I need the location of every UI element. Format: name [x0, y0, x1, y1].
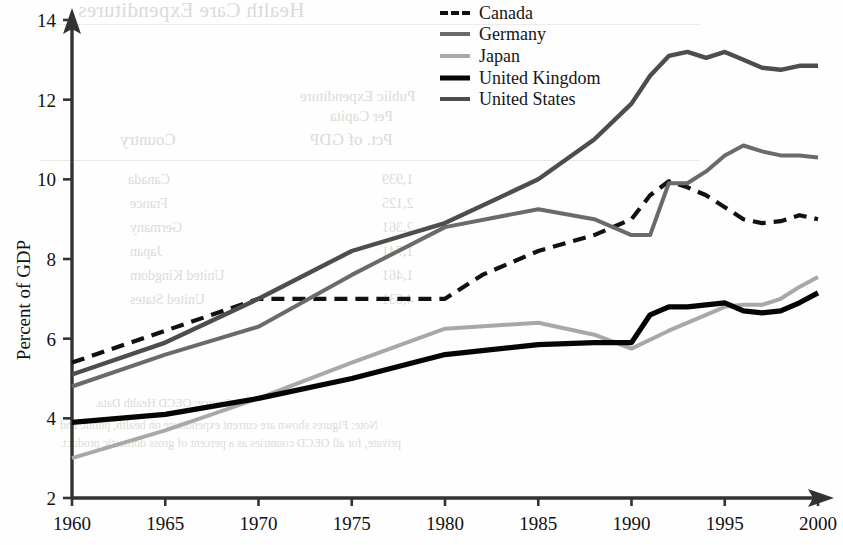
legend-item-japan[interactable]: Japan: [440, 45, 601, 67]
y-tick-label: 12: [37, 90, 56, 111]
y-tick-label: 10: [37, 169, 56, 190]
y-tick-label: 4: [47, 408, 57, 429]
legend-label-japan: Japan: [479, 47, 520, 65]
x-tick-group: 196019651970197519801985199019952000: [53, 498, 837, 534]
line-chart: 2468101214 19601965197019751980198519901…: [0, 0, 843, 545]
figure-container: Health Care Expenditures Public Expendit…: [0, 0, 843, 545]
legend-label-united-states: United States: [479, 90, 576, 108]
series-line-germany: [72, 146, 818, 387]
series-line-united-kingdom: [72, 293, 818, 422]
x-tick-label: 1975: [333, 513, 371, 534]
y-tick-label: 2: [47, 488, 57, 509]
x-tick-label: 1980: [426, 513, 464, 534]
y-axis-title: Percent of GDP: [13, 240, 34, 360]
legend-swatch-germany: [440, 27, 470, 41]
legend-swatch-japan: [440, 49, 470, 63]
legend-label-canada: Canada: [479, 4, 533, 22]
x-tick-label: 1970: [240, 513, 278, 534]
y-tick-label: 6: [47, 329, 57, 350]
x-tick-label: 1985: [519, 513, 557, 534]
legend-label-united-kingdom: United Kingdom: [479, 69, 601, 87]
x-tick-label: 1960: [53, 513, 91, 534]
x-tick-label: 1995: [706, 513, 744, 534]
series-group: [72, 52, 818, 458]
x-tick-label: 2000: [799, 513, 837, 534]
chart-legend: Canada Germany Japan United Kingdom Unit…: [440, 2, 601, 110]
y-tick-group: 2468101214: [37, 10, 72, 509]
legend-item-germany[interactable]: Germany: [440, 24, 601, 46]
legend-swatch-united-states: [440, 92, 470, 106]
x-tick-label: 1990: [613, 513, 651, 534]
y-tick-label: 14: [37, 10, 57, 31]
legend-item-united-states[interactable]: United States: [440, 88, 601, 110]
legend-swatch-canada: [440, 6, 470, 20]
legend-label-germany: Germany: [479, 25, 546, 43]
y-tick-label: 8: [47, 249, 57, 270]
legend-item-united-kingdom[interactable]: United Kingdom: [440, 67, 601, 89]
legend-swatch-united-kingdom: [440, 71, 470, 85]
x-tick-label: 1965: [146, 513, 184, 534]
legend-item-canada[interactable]: Canada: [440, 2, 601, 24]
